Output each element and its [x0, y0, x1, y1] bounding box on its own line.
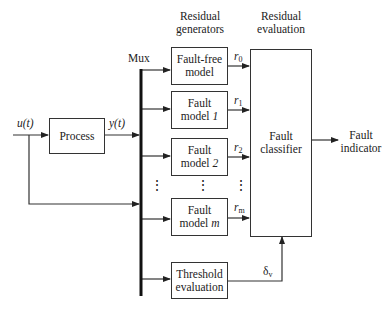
fault-indicator-label: Fault indicator [338, 129, 384, 155]
residual-evaluation-header: Residual evaluation [250, 10, 312, 36]
process-block: Process [49, 118, 105, 154]
threshold-delta-label: δv [263, 265, 272, 281]
mux-label: Mux [128, 52, 150, 65]
threshold-arrow [227, 237, 282, 281]
models-ellipsis: ⋮ [196, 177, 210, 195]
residual-r2-label: r2 [234, 141, 242, 157]
fault-model-1-block: Faultmodel 1 [171, 91, 228, 129]
residual-r1-label: r1 [234, 94, 242, 110]
residual-generators-header: Residual generators [172, 10, 228, 36]
threshold-evaluation-block: Thresholdevaluation [171, 262, 228, 299]
fault-classifier-block: Faultclassifier [250, 49, 312, 237]
input-signal-label: u(t) [17, 117, 34, 130]
output-signal-label: y(t) [109, 117, 125, 130]
fault-model-2-block: Faultmodel 2 [171, 138, 228, 176]
fault-model-m-block: Faultmodel m [171, 198, 228, 236]
residuals-ellipsis: ⋮ [234, 177, 248, 195]
residual-r0-label: r0 [234, 50, 242, 66]
residual-rm-label: rm [234, 201, 245, 217]
fault-free-model-block: Fault-freemodel [171, 47, 228, 85]
mux-ellipsis: ⋮ [150, 177, 164, 195]
